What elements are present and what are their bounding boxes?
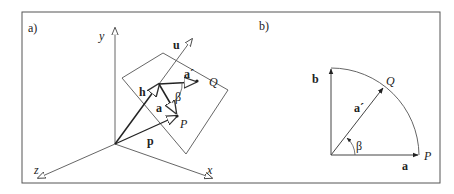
vector-p-label: p <box>147 134 154 148</box>
point-p <box>175 114 178 117</box>
panel-a-label: a) <box>28 21 37 35</box>
vector-u-label: u <box>173 38 180 52</box>
angle-arc <box>347 138 355 155</box>
vector-a-prime <box>159 82 196 84</box>
vector-h-label: h <box>139 85 146 99</box>
z-axis-label: z <box>33 163 39 177</box>
rotation-arc <box>331 68 419 155</box>
vector-a-label: a <box>156 101 162 115</box>
point-q-label: Q <box>386 74 395 88</box>
point-q <box>195 79 198 82</box>
panel-b-label: b) <box>259 19 269 33</box>
angle-beta-label: β <box>356 139 362 153</box>
y-axis-label: y <box>98 29 105 43</box>
x-axis-label: x <box>206 163 213 177</box>
vector-a-prime-label: a´ <box>184 67 194 81</box>
panel-a: a) y z x u h p a a´ β P Q <box>28 21 228 178</box>
vector-p <box>115 116 177 144</box>
angle-beta-label: β <box>175 90 181 104</box>
point-p-label: P <box>423 149 432 163</box>
rotation-diagram: a) y z x u h p a a´ β P Q b) <box>0 0 454 194</box>
point-p-label: P <box>179 117 188 131</box>
z-axis <box>38 144 115 178</box>
point-q-label: Q <box>209 75 218 89</box>
panel-b: b) b a a´ β Q P <box>259 19 432 173</box>
vector-a-prime-label: a´ <box>354 101 364 115</box>
vector-a-label: a <box>402 159 408 173</box>
x-axis <box>115 144 212 178</box>
vector-b-label: b <box>312 72 319 86</box>
